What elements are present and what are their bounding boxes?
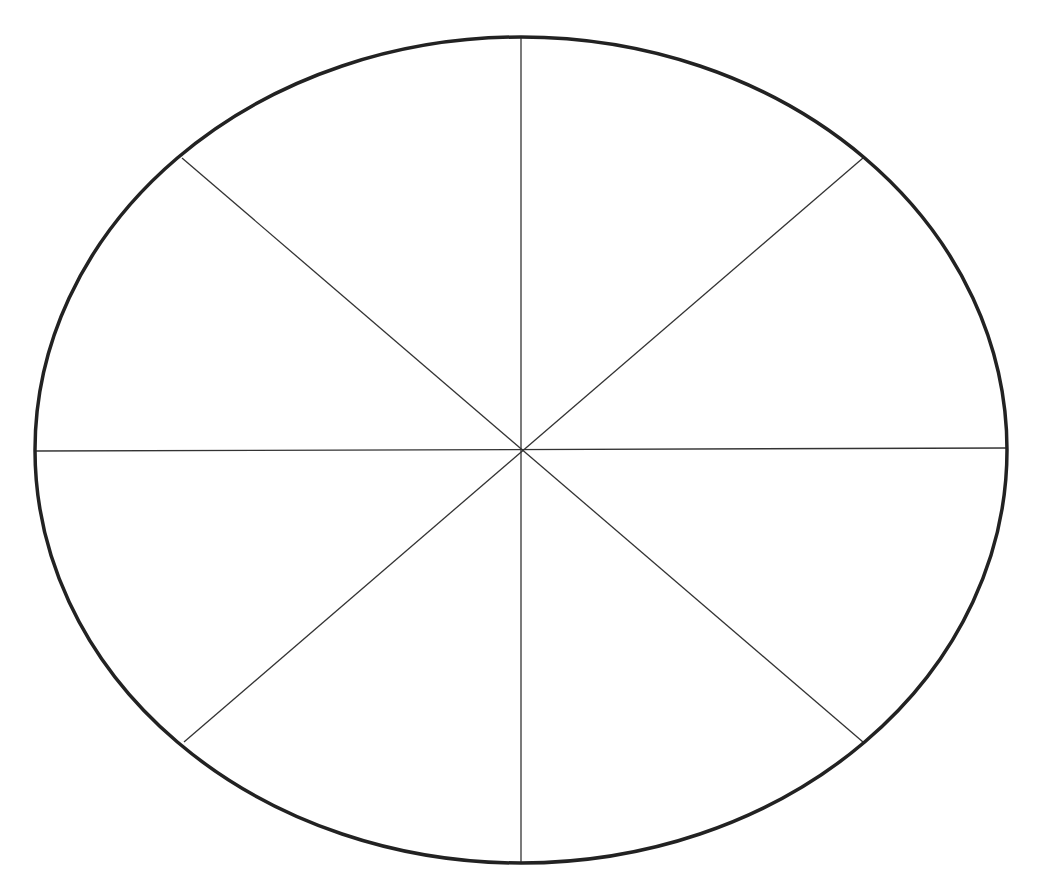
segmented-ellipse-diagram — [0, 0, 1043, 887]
